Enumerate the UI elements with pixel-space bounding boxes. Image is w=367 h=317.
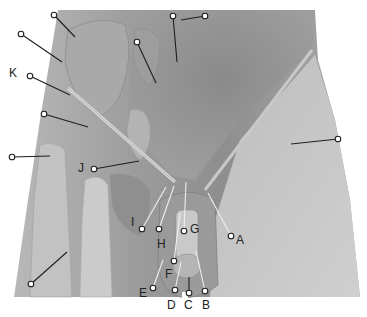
label-J: J <box>78 162 84 174</box>
pin-icon-B <box>202 288 208 294</box>
label-H: H <box>157 238 166 250</box>
label-I: I <box>131 216 134 228</box>
pin-icon <box>202 13 208 19</box>
pin-icon-C <box>186 290 192 296</box>
pin-icon-I <box>139 226 145 232</box>
thigh-muscle <box>80 177 112 297</box>
pin-icon-G <box>181 228 187 234</box>
pin-icon <box>28 281 34 287</box>
pin-icon-D <box>172 287 178 293</box>
pin-icon <box>335 136 341 142</box>
pin-icon-K <box>27 73 33 79</box>
pin-icon <box>51 12 57 18</box>
anatomy-illustration <box>0 0 367 317</box>
label-D: D <box>167 299 176 311</box>
label-E: E <box>139 287 147 299</box>
label-F: F <box>165 268 172 280</box>
label-G: G <box>190 223 199 235</box>
label-A: A <box>236 234 244 246</box>
pin-icon-J <box>91 166 97 172</box>
label-C: C <box>184 299 193 311</box>
pin-icon <box>18 31 24 37</box>
pin-icon-F <box>171 258 177 264</box>
anatomy-figure: A B C D E F G H I J K <box>0 0 367 317</box>
label-B: B <box>202 299 210 311</box>
pin-icon <box>134 39 140 45</box>
pin-icon-E <box>150 285 156 291</box>
pin-icon <box>41 111 47 117</box>
pin-icon <box>9 154 15 160</box>
label-K: K <box>9 67 17 79</box>
pin-icon-H <box>156 226 162 232</box>
glans <box>173 254 201 278</box>
pin-icon <box>170 13 176 19</box>
pin-icon-A <box>228 233 234 239</box>
